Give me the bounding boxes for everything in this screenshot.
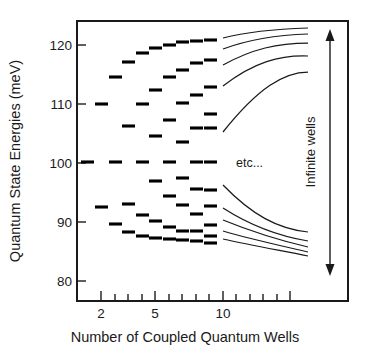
- level-column-n6: [149, 48, 162, 238]
- chart-svg: 120 110 100 90 80 Quantum State Energies…: [0, 0, 370, 363]
- infinite-wells-arrow: [326, 29, 335, 276]
- y-axis-tick-labels: 120 110 100 90 80: [49, 38, 72, 289]
- level-column-n7: [163, 45, 176, 239]
- upper-band-curves: [223, 28, 308, 132]
- y-tick-label-90: 90: [57, 215, 72, 230]
- quantum-well-energy-chart: 120 110 100 90 80 Quantum State Energies…: [0, 0, 370, 363]
- etc-label: etc...: [236, 156, 263, 170]
- level-column-n5: [136, 53, 149, 236]
- y-tick-label-100: 100: [49, 156, 72, 171]
- energy-level-dashes: [81, 40, 217, 243]
- y-tick-label-110: 110: [50, 97, 72, 112]
- y-tick-label-120: 120: [49, 38, 72, 53]
- level-column-n4: [122, 62, 135, 232]
- level-column-n9: [190, 41, 203, 241]
- x-tick-label-10: 10: [215, 306, 230, 321]
- level-column-n2: [95, 104, 108, 207]
- x-axis-tick-labels: 2 5 10: [97, 306, 230, 321]
- level-column-n8: [176, 42, 189, 240]
- y-tick-label-80: 80: [57, 274, 72, 289]
- x-tick-label-2: 2: [97, 306, 105, 321]
- level-column-n10: [204, 40, 217, 243]
- level-column-n3: [109, 77, 122, 224]
- infinite-wells-label: Infinite wells: [303, 116, 318, 187]
- x-axis-title: Number of Coupled Quantum Wells: [71, 329, 300, 345]
- x-tick-label-5: 5: [151, 306, 159, 321]
- lower-band-curves: [223, 185, 308, 256]
- y-axis-title: Quantum State Energies (meV): [7, 60, 23, 262]
- x-axis-ticks: [101, 291, 290, 301]
